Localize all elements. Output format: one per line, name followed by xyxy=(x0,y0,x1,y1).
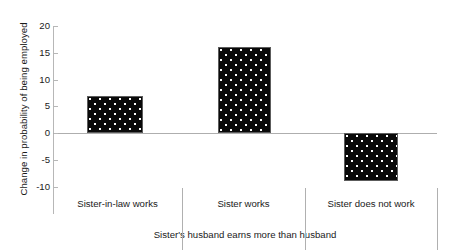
axis-divider xyxy=(437,188,438,250)
y-axis-tick-mark xyxy=(54,187,58,188)
y-axis-tick-mark xyxy=(54,133,58,134)
y-axis-tick-mark xyxy=(54,53,58,54)
category-label: Sister-in-law works xyxy=(53,188,182,220)
axis-divider xyxy=(305,188,306,250)
y-axis-tick-mark xyxy=(54,80,58,81)
bar xyxy=(218,47,271,133)
category-axis: Sister-in-law worksSister worksSister do… xyxy=(53,188,437,252)
bar xyxy=(344,133,398,181)
category-label: Sister does not work xyxy=(305,188,437,220)
bar xyxy=(87,96,143,133)
y-axis-tick-mark xyxy=(54,160,58,161)
y-axis-tick-mark xyxy=(54,106,58,107)
group-caption-label: Sister's husband earns more than husband xyxy=(53,220,437,250)
group-caption-row: Sister's husband earns more than husband xyxy=(53,220,437,250)
bar-chart: Change in probability of being employed … xyxy=(0,0,451,252)
y-axis-tick-mark xyxy=(54,26,58,27)
category-label: Sister works xyxy=(182,188,305,220)
category-label-row: Sister-in-law worksSister worksSister do… xyxy=(53,188,437,220)
axis-divider xyxy=(182,188,183,250)
